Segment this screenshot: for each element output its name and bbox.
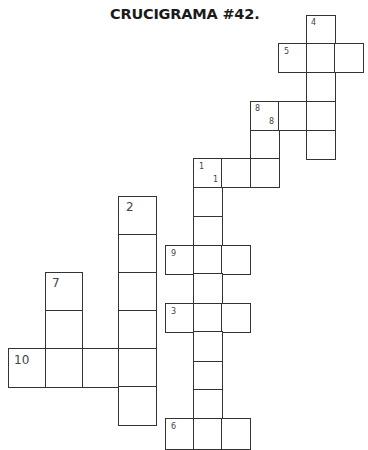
cell-1-down-9[interactable] — [193, 389, 223, 420]
cell-5-across-3[interactable] — [334, 43, 364, 73]
cell-5-across-1[interactable]: 5 — [278, 43, 308, 73]
cell-9-across-3[interactable] — [221, 245, 251, 275]
clue-number: 10 — [14, 354, 29, 366]
cell-10-across-1[interactable]: 10 — [8, 348, 46, 388]
cell-1-across-1[interactable]: 1 1 — [193, 158, 223, 188]
cell-2-down-1[interactable]: 2 — [118, 196, 157, 235]
clue-number: 9 — [171, 250, 176, 258]
cell-1-down-8[interactable] — [193, 361, 223, 391]
cell-2-down-6[interactable] — [118, 386, 157, 426]
cell-8-across-3[interactable] — [306, 101, 336, 131]
cell-6-across-3[interactable] — [221, 418, 251, 450]
cell-7-down-1[interactable]: 7 — [45, 272, 83, 312]
clue-number: 6 — [171, 423, 176, 431]
cell-1-down-3[interactable] — [193, 216, 223, 247]
cell-6-across-2[interactable] — [193, 418, 223, 450]
clue-number: 8 — [255, 105, 260, 113]
cell-3-across-1[interactable]: 3 — [165, 303, 195, 333]
cell-2-down-5[interactable] — [118, 348, 157, 388]
cell-4-down-1[interactable]: 4 — [306, 15, 336, 45]
cell-3-across-2[interactable] — [193, 303, 223, 333]
cell-1-across-2[interactable] — [221, 158, 251, 188]
cell-1-down-5[interactable] — [193, 273, 223, 304]
cell-10-across-3[interactable] — [82, 348, 119, 388]
cell-1-across-3[interactable] — [250, 158, 280, 188]
cell-7-down-2[interactable] — [45, 310, 83, 350]
cell-5-across-2[interactable] — [306, 43, 336, 73]
clue-number: 1 — [199, 163, 204, 171]
cell-3-across-3[interactable] — [221, 303, 251, 333]
puzzle-title: CRUCIGRAMA #42. — [110, 6, 252, 22]
cell-10-across-2[interactable] — [45, 348, 83, 388]
cell-6-across-1[interactable]: 6 — [165, 418, 195, 450]
cell-1-down-2[interactable] — [193, 187, 223, 218]
clue-number: 8 — [269, 118, 274, 126]
cell-9-across-1[interactable]: 9 — [165, 245, 195, 275]
clue-number: 2 — [126, 201, 134, 213]
cell-2-down-4[interactable] — [118, 310, 157, 350]
clue-number: 4 — [311, 19, 316, 27]
cell-2-down-2[interactable] — [118, 234, 157, 273]
cell-1-down-7[interactable] — [193, 331, 223, 363]
clue-number: 5 — [284, 48, 289, 56]
cell-4-down-5[interactable] — [306, 130, 336, 160]
cell-8-across-1[interactable]: 8 8 — [250, 101, 280, 131]
cell-2-down-3[interactable] — [118, 272, 157, 312]
cell-8-down-2[interactable] — [250, 130, 280, 160]
cell-9-across-2[interactable] — [193, 245, 223, 275]
cell-4-down-3[interactable] — [306, 72, 336, 102]
cell-8-across-2[interactable] — [278, 101, 308, 131]
clue-number: 1 — [213, 176, 218, 184]
clue-number: 3 — [171, 308, 176, 316]
clue-number: 7 — [52, 277, 60, 289]
